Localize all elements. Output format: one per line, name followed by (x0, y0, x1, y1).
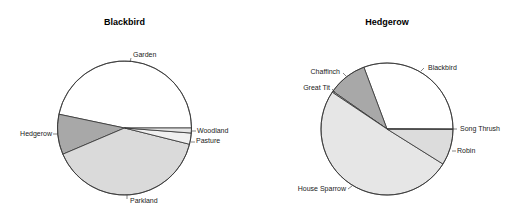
slice-label-song-thrush: Song Thrush (460, 125, 500, 133)
slice-label-blackbird: Blackbird (428, 64, 457, 71)
slice-label-house-sparrow: House Sparrow (298, 185, 347, 193)
label-tick (421, 68, 424, 71)
slice-label-woodland: Woodland (197, 127, 229, 134)
slice-label-parkland: Parkland (130, 197, 158, 204)
pie-slices (321, 63, 453, 195)
pie-charts-figure: Blackbird GardenHedgerowParklandPastureW… (0, 0, 516, 213)
slice-label-hedgerow: Hedgerow (20, 130, 53, 138)
slice-label-great-tit: Great Tit (303, 84, 330, 91)
pie-slice-garden (59, 61, 192, 128)
pie-chart-hedgerow: Hedgerow BlackbirdChaffinchGreat TitHous… (298, 17, 500, 195)
slice-label-chaffinch: Chaffinch (311, 68, 341, 75)
slice-label-pasture: Pasture (196, 137, 220, 144)
pie-slices (58, 61, 192, 195)
chart-title: Blackbird (104, 17, 145, 27)
slice-label-robin: Robin (457, 147, 475, 154)
pie-chart-blackbird: Blackbird GardenHedgerowParklandPastureW… (20, 17, 228, 204)
label-tick (348, 186, 352, 189)
slice-label-garden: Garden (133, 51, 156, 58)
label-tick (343, 73, 346, 76)
chart-title: Hedgerow (365, 17, 410, 27)
